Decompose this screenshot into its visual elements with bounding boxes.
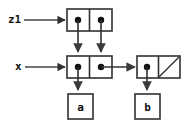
- cons-cell-top: [67, 9, 112, 31]
- atom-box-a: a: [68, 94, 93, 119]
- variable-label-z1: z1: [8, 13, 22, 26]
- cons-cell-right: [137, 56, 180, 78]
- atom-b-label: b: [144, 101, 151, 114]
- diagram-canvas: z1 x: [0, 0, 194, 125]
- atom-box-b: b: [135, 94, 160, 119]
- variable-label-x: x: [15, 60, 22, 73]
- box-and-pointer-diagram: z1 x: [0, 0, 194, 125]
- atom-a-label: a: [77, 101, 84, 114]
